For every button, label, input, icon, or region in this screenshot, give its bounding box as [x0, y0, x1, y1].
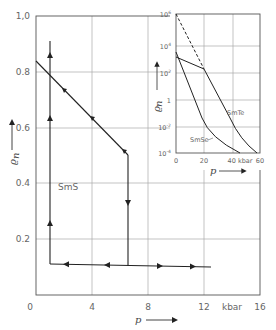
- smte-label: SmTe: [227, 109, 244, 117]
- y-tick: 1,0: [16, 11, 31, 21]
- x-tick: 16: [254, 302, 266, 312]
- y-axis-label-sub: n: [10, 153, 21, 159]
- inset-x-tick: 0: [174, 157, 178, 165]
- chart: 0.2 0.4 0.6 0.8 1,0 0 4 8 12 16 kbar p ϱ…: [0, 0, 276, 330]
- y-axis-label-group: ϱ n: [7, 153, 21, 165]
- inset-x-tick: 60: [256, 157, 264, 165]
- inset-plot: 106 104 102 1 10-2 10-4 0 20 40 kbar 60 …: [151, 10, 270, 176]
- inset-y-tick: 10-2: [158, 123, 171, 132]
- x-unit-label: kbar: [222, 302, 242, 312]
- inset-y-tick: 10-4: [158, 149, 171, 158]
- x-tick: 12: [198, 302, 209, 312]
- y-tick: 0.6: [16, 123, 31, 133]
- inset-y-tick: 106: [160, 10, 171, 19]
- x-tick: 4: [89, 302, 95, 312]
- inset-x-label: p: [210, 165, 217, 176]
- y-tick: 0.2: [16, 234, 30, 244]
- inset-y-label-group: ϱ n: [151, 101, 164, 112]
- inset-y-tick: 1: [167, 97, 171, 105]
- y-tick: 0.4: [16, 178, 31, 188]
- inset-x-unit: 40 kbar: [228, 157, 253, 165]
- inset-y-tick: 102: [160, 69, 171, 78]
- x-axis-label: p: [135, 314, 142, 325]
- material-label: SmS: [58, 182, 78, 192]
- x-tick: 8: [145, 302, 151, 312]
- x-tick: 0: [27, 302, 33, 312]
- smse-label: SmSe: [190, 136, 209, 144]
- y-tick: 0.8: [16, 67, 31, 77]
- inset-x-tick: 20: [200, 157, 208, 165]
- svg-text:n: n: [153, 101, 164, 107]
- inset-y-tick: 104: [160, 42, 171, 51]
